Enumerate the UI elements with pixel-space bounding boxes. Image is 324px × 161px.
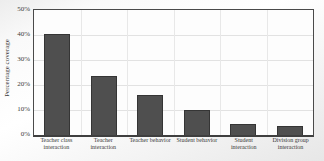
gridline-vertical	[220, 10, 221, 135]
gridline-vertical	[267, 10, 268, 135]
gridline-vertical	[174, 10, 175, 135]
bar-4	[184, 110, 210, 135]
y-tick-label: 30%	[0, 55, 30, 63]
y-tick-label: 10%	[0, 105, 30, 113]
y-tick-label: 20%	[0, 80, 30, 88]
bar-5	[230, 124, 256, 135]
y-tick-label: 40%	[0, 30, 30, 38]
bar-1	[44, 34, 70, 135]
y-tick-label: 50%	[0, 5, 30, 13]
x-category-label: Division group interaction	[267, 137, 314, 151]
y-tick-label: 0%	[0, 130, 30, 138]
gridline-vertical	[81, 10, 82, 135]
bar-3	[137, 95, 163, 135]
plot-area	[33, 9, 314, 137]
x-category-label: Teacher class interaction	[33, 137, 80, 151]
x-category-label: Teacher interaction	[80, 137, 127, 151]
bar-6	[277, 126, 303, 135]
x-category-label: Teacher behavior	[127, 137, 174, 151]
x-axis-labels: Teacher class interactionTeacher interac…	[33, 137, 314, 151]
y-axis-title: Percentage coverage	[3, 37, 11, 99]
x-category-label: Student interaction	[220, 137, 267, 151]
bar-2	[91, 76, 117, 135]
gridline-vertical	[127, 10, 128, 135]
x-category-label: Student behavior	[173, 137, 220, 151]
bar-chart: Percentage coverage Teacher class intera…	[0, 0, 324, 161]
